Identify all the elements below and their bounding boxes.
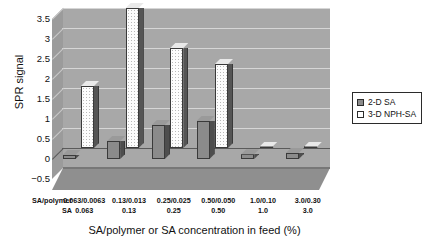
bar-2d-sa xyxy=(63,155,76,159)
bar-front-face xyxy=(286,153,299,159)
bar-side-face xyxy=(228,64,233,148)
y-tick-label: −0.5 xyxy=(20,175,50,183)
bar-2d-sa xyxy=(197,121,210,159)
bar-front-face xyxy=(241,154,254,159)
y-tick-label: 1 xyxy=(20,115,50,123)
y-tick-label: 3 xyxy=(20,35,50,43)
legend-item-3d-nph-sa: 3-D NPH-SA xyxy=(357,108,416,120)
gridline xyxy=(62,68,330,69)
bar-side-face xyxy=(139,8,144,148)
bar-side-face xyxy=(210,121,215,159)
gridline xyxy=(62,28,330,29)
bar-front-face xyxy=(81,86,94,148)
bar-3d-nph-sa xyxy=(170,48,183,148)
bar-2d-sa xyxy=(107,141,120,159)
bar-3d-nph-sa xyxy=(215,64,228,148)
chart-floor xyxy=(52,168,330,190)
bar-side-face xyxy=(183,48,188,148)
y-tick-label: 1.5 xyxy=(20,95,50,103)
bar-2d-sa xyxy=(286,153,299,159)
legend-swatch-icon xyxy=(357,99,364,106)
bar-3d-nph-sa xyxy=(304,147,317,149)
bar-front-face xyxy=(152,125,165,159)
bar-2d-sa xyxy=(241,154,254,159)
bar-3d-nph-sa xyxy=(260,147,273,149)
gridline xyxy=(62,88,330,89)
y-tick-label: 0.5 xyxy=(20,135,50,143)
bar-front-face xyxy=(215,64,228,148)
legend-swatch-icon xyxy=(357,111,364,118)
plot-area xyxy=(52,8,330,190)
y-tick-label: 2 xyxy=(20,75,50,83)
bar-side-face xyxy=(165,125,170,159)
bar-front-face xyxy=(170,48,183,148)
y-tick-label: 2.5 xyxy=(20,55,50,63)
x-axis-category-label: 3.0/0.30 xyxy=(277,196,339,205)
chart-floor-edge xyxy=(52,167,330,169)
y-tick-label: 0 xyxy=(20,155,50,163)
bar-front-face xyxy=(126,8,139,148)
x-axis-category-label: 3.0 xyxy=(277,206,339,215)
gridline xyxy=(62,48,330,49)
legend-label: 3-D NPH-SA xyxy=(368,108,416,120)
bar-front-face xyxy=(63,155,76,159)
y-tick-label: 3.5 xyxy=(20,15,50,23)
bar-2d-sa xyxy=(152,125,165,159)
legend-item-2d-sa: 2-D SA xyxy=(357,96,416,108)
spr-signal-bar-chart: SPR signal 3.532.521.510.50−0.5 2-D SA 3… xyxy=(0,0,445,245)
legend: 2-D SA 3-D NPH-SA xyxy=(352,92,422,124)
x-axis-category-labels: SA/polymerSA0.063/0.00630.0630.13/0.0130… xyxy=(0,196,445,222)
bar-3d-nph-sa xyxy=(81,86,94,148)
gridline xyxy=(62,8,330,9)
gridline xyxy=(62,108,330,109)
bar-side-face xyxy=(94,86,99,148)
bar-front-face xyxy=(107,141,120,159)
legend-label: 2-D SA xyxy=(368,96,395,108)
bar-front-face xyxy=(197,121,210,159)
bar-3d-nph-sa xyxy=(126,8,139,148)
x-axis-title: SA/polymer or SA concentration in feed (… xyxy=(0,224,445,236)
